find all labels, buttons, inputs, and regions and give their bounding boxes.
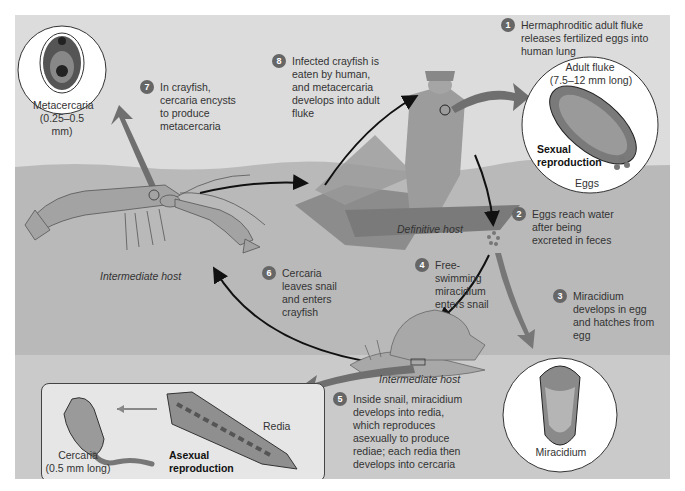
metacercaria-size-label: (0.25–0.5 mm) (29, 112, 95, 138)
step-text: Inside snail, miracidium develops into r… (353, 393, 473, 471)
asexual-reproduction-label-2: reproduction (169, 462, 234, 475)
step-5: 5 Inside snail, miracidium develops into… (333, 393, 473, 471)
step-text: Infected crayfish is eaten by human, and… (292, 55, 388, 120)
step-number-badge: 4 (415, 258, 429, 272)
life-cycle-diagram: Metacercaria (0.25–0.5 mm) Adult fluke (… (15, 15, 670, 479)
adult-fluke-size-label: (7.5–12 mm long) (543, 74, 639, 87)
step-text: Cercaria leaves snail and enters crayfis… (282, 267, 348, 319)
step-4: 4 Free-swimming miracidium enters snail (415, 259, 505, 311)
step-text: In crayfish, cercaria encysts to produce… (160, 81, 242, 133)
step-1: 1 Hermaphroditic adult fluke releases fe… (501, 19, 666, 58)
intermediate-host-snail-label: Intermediate host (379, 373, 460, 386)
step-number-badge: 7 (140, 80, 154, 94)
sexual-reproduction-label-2: reproduction (537, 156, 602, 169)
step-number-badge: 6 (262, 266, 276, 280)
step-number-badge: 1 (501, 18, 515, 32)
eggs-label: Eggs (575, 177, 599, 190)
step-number-badge: 5 (333, 392, 347, 406)
step-8: 8 Infected crayfish is eaten by human, a… (272, 55, 388, 120)
sexual-reproduction-label-1: Sexual (537, 143, 571, 156)
adult-fluke-label: Adult fluke (555, 61, 625, 74)
asexual-reproduction-label-1: Asexual (169, 449, 209, 462)
step-3: 3 Miracidium develops in egg and hatches… (553, 290, 665, 342)
step-text: Miracidium develops in egg and hatches f… (573, 290, 665, 342)
intermediate-host-crayfish-label: Intermediate host (100, 270, 181, 283)
step-text: Free-swimming miracidium enters snail (435, 259, 505, 311)
cercaria-size-label: (0.5 mm long) (37, 462, 119, 475)
step-text: Eggs reach water after being excreted in… (532, 208, 622, 247)
step-number-badge: 3 (553, 289, 567, 303)
step-2: 2 Eggs reach water after being excreted … (512, 208, 622, 247)
step-7: 7 In crayfish, cercaria encysts to produ… (140, 81, 242, 133)
step-number-badge: 2 (512, 207, 526, 221)
step-6: 6 Cercaria leaves snail and enters crayf… (262, 267, 348, 319)
definitive-host-label: Definitive host (397, 223, 463, 236)
arrow-human-to-adult-fluke (451, 83, 530, 113)
step-text: Hermaphroditic adult fluke releases fert… (521, 19, 666, 58)
step-number-badge: 8 (272, 54, 286, 68)
miracidium-label: Miracidium (525, 446, 597, 459)
cercaria-label: Cercaria (43, 449, 113, 462)
metacercaria-label: Metacercaria (33, 99, 91, 112)
redia-label: Redia (263, 420, 290, 433)
